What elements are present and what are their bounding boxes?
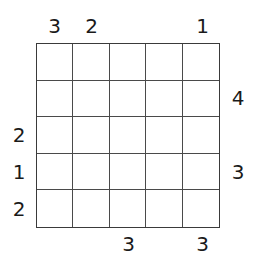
clue-left-row-5: 2 — [4, 197, 34, 221]
grid-cell-r1c1[interactable] — [37, 44, 73, 81]
grid-cell-r3c2[interactable] — [73, 117, 109, 154]
clue-left-row-1 — [4, 49, 34, 73]
clue-right-row-1 — [223, 49, 253, 73]
clue-left-row-3: 2 — [4, 123, 34, 147]
grid-cell-r5c2[interactable] — [73, 190, 109, 227]
grid-cell-r3c3[interactable] — [110, 117, 146, 154]
grid-cell-r3c4[interactable] — [146, 117, 182, 154]
puzzle-canvas: 3 2 1 3 3 2 1 2 4 3 — [0, 0, 257, 264]
clue-left-row-4: 1 — [4, 160, 34, 184]
grid-cell-r5c4[interactable] — [146, 190, 182, 227]
clue-bottom-col-3: 3 — [110, 232, 147, 256]
clue-top-col-4 — [147, 14, 184, 38]
grid-cell-r2c2[interactable] — [73, 81, 109, 118]
grid-cell-r2c1[interactable] — [37, 81, 73, 118]
grid-cell-r5c3[interactable] — [110, 190, 146, 227]
clue-top-col-1: 3 — [36, 14, 73, 38]
clue-bottom-col-4 — [147, 232, 184, 256]
grid-cell-r4c1[interactable] — [37, 154, 73, 191]
grid-cell-r1c2[interactable] — [73, 44, 109, 81]
clue-right-row-4: 3 — [223, 160, 253, 184]
grid-cell-r1c5[interactable] — [183, 44, 219, 81]
clue-top-col-3 — [110, 14, 147, 38]
grid-cell-r1c3[interactable] — [110, 44, 146, 81]
grid-cell-r2c4[interactable] — [146, 81, 182, 118]
clue-left-row-2 — [4, 86, 34, 110]
grid-cell-r3c5[interactable] — [183, 117, 219, 154]
clue-right-row-3 — [223, 123, 253, 147]
grid-cell-r2c5[interactable] — [183, 81, 219, 118]
clue-top-col-2: 2 — [73, 14, 110, 38]
clue-bottom-col-1 — [36, 232, 73, 256]
clue-top-col-5: 1 — [184, 14, 221, 38]
grid-cell-r5c1[interactable] — [37, 190, 73, 227]
grid-cell-r4c5[interactable] — [183, 154, 219, 191]
clue-bottom-col-5: 3 — [184, 232, 221, 256]
puzzle-grid — [36, 43, 220, 228]
clue-right-row-5 — [223, 197, 253, 221]
grid-cell-r1c4[interactable] — [146, 44, 182, 81]
grid-cell-r4c2[interactable] — [73, 154, 109, 191]
grid-cell-r4c3[interactable] — [110, 154, 146, 191]
grid-cell-r3c1[interactable] — [37, 117, 73, 154]
clue-right-row-2: 4 — [223, 86, 253, 110]
clue-bottom-col-2 — [73, 232, 110, 256]
grid-cell-r2c3[interactable] — [110, 81, 146, 118]
grid-cell-r4c4[interactable] — [146, 154, 182, 191]
grid-cell-r5c5[interactable] — [183, 190, 219, 227]
